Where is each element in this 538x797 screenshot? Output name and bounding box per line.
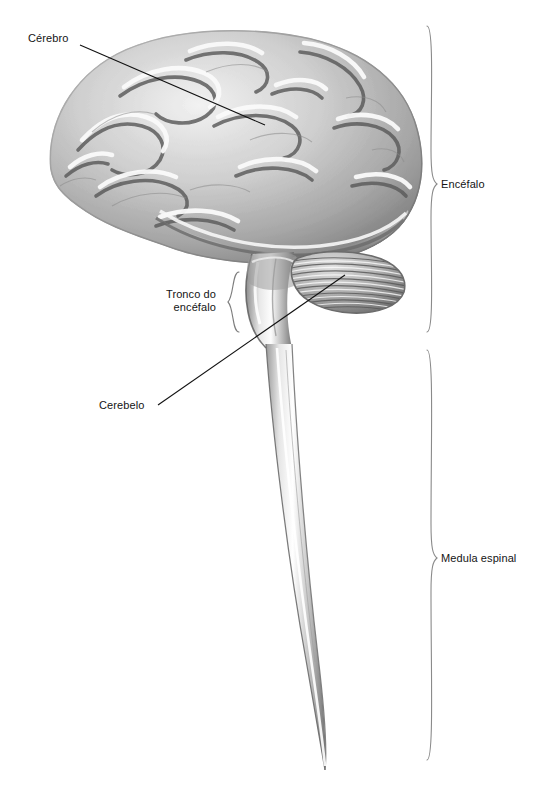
label-tronco-do-encefalo: Tronco doencéfalo: [96, 288, 216, 313]
label-tronco-line2: encéfalo: [174, 301, 216, 313]
label-cerebro: Cérebro: [28, 32, 68, 45]
label-tronco-line1: Tronco do: [166, 288, 216, 300]
cerebellum-illustration: [286, 252, 412, 313]
brace-medula-espinal: [427, 350, 437, 760]
label-encefalo: Encéfalo: [441, 178, 485, 191]
anatomical-figure: Cérebro Tronco doencéfalo Cerebelo Encéf…: [0, 0, 538, 797]
brainstem-illustration: [246, 252, 299, 349]
brace-encefalo: [427, 26, 437, 332]
label-medula-espinal: Medula espinal: [441, 552, 516, 565]
brain-illustration: [0, 0, 538, 797]
label-cerebelo: Cerebelo: [99, 399, 144, 412]
cerebrum-illustration: [50, 30, 423, 264]
spinal-cord-illustration: [266, 344, 326, 770]
brace-tronco-do-encefalo: [228, 272, 239, 332]
